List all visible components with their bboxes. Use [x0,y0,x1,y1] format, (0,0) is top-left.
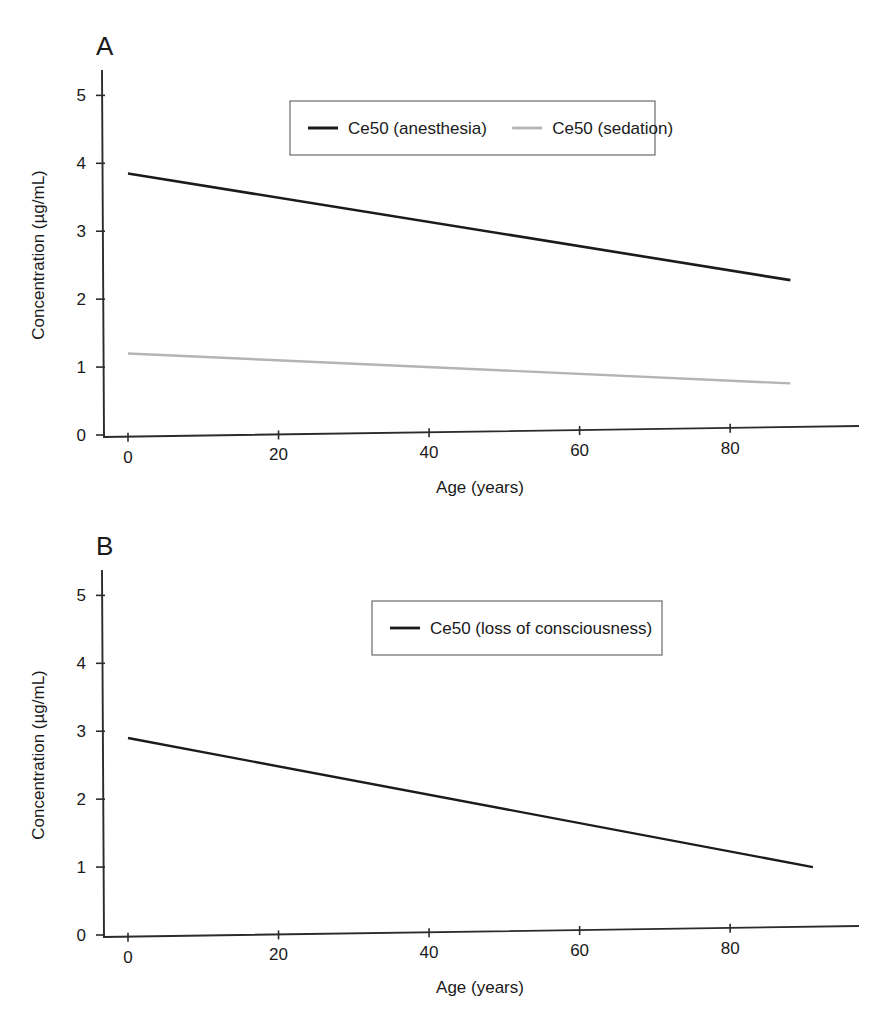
y-tick-label-a-4: 4 [77,154,86,173]
x-tick-label-a-4: 80 [721,439,740,458]
legend-label-b-0: Ce50 (loss of consciousness) [430,619,652,638]
x-tick-label-b-0: 0 [123,948,132,967]
y-axis-title-b: Concentration (µg/mL) [29,670,48,839]
x-axis-title-a: Age (years) [436,478,524,497]
x-tick-label-b-1: 20 [269,945,288,964]
y-tick-label-a-3: 3 [77,222,86,241]
y-tick-label-b-5: 5 [77,586,86,605]
panel-letter-a: A [96,31,114,61]
chart-panel-a: A012345020406080Age (years)Concentration… [0,0,894,500]
panel-letter-b: B [96,531,113,561]
y-tick-label-a-1: 1 [77,358,86,377]
y-axis-title-a: Concentration (µg/mL) [29,170,48,339]
y-tick-label-a-5: 5 [77,86,86,105]
y-tick-label-a-0: 0 [77,426,86,445]
chart-panel-b: B012345020406080Age (years)Concentration… [0,500,894,1000]
panel-b-canvas: B012345020406080Age (years)Concentration… [0,500,894,1000]
panel-a-canvas: A012345020406080Age (years)Concentration… [0,0,894,500]
y-tick-label-b-2: 2 [77,790,86,809]
legend-label-a-1: Ce50 (sedation) [552,119,673,138]
y-tick-label-b-0: 0 [77,926,86,945]
x-tick-label-a-1: 20 [269,445,288,464]
series-line-b-0 [128,738,813,867]
x-tick-label-b-3: 60 [570,941,589,960]
y-axis-line-a [102,71,104,437]
x-axis-line-b [104,926,858,937]
x-axis-title-b: Age (years) [436,978,524,997]
y-tick-label-a-2: 2 [77,290,86,309]
y-tick-label-b-4: 4 [77,654,86,673]
y-tick-label-b-3: 3 [77,722,86,741]
y-axis-line-b [102,571,104,937]
figure-two-panel-chart: A012345020406080Age (years)Concentration… [0,0,894,1019]
x-tick-label-b-4: 80 [721,939,740,958]
x-tick-label-a-0: 0 [123,448,132,467]
x-tick-label-a-2: 40 [420,443,439,462]
x-tick-label-b-2: 40 [420,943,439,962]
x-axis-line-a [104,426,858,437]
legend-label-a-0: Ce50 (anesthesia) [348,119,487,138]
x-tick-label-a-3: 60 [570,441,589,460]
y-tick-label-b-1: 1 [77,858,86,877]
series-line-a-1 [128,353,790,383]
series-line-a-0 [128,173,790,280]
